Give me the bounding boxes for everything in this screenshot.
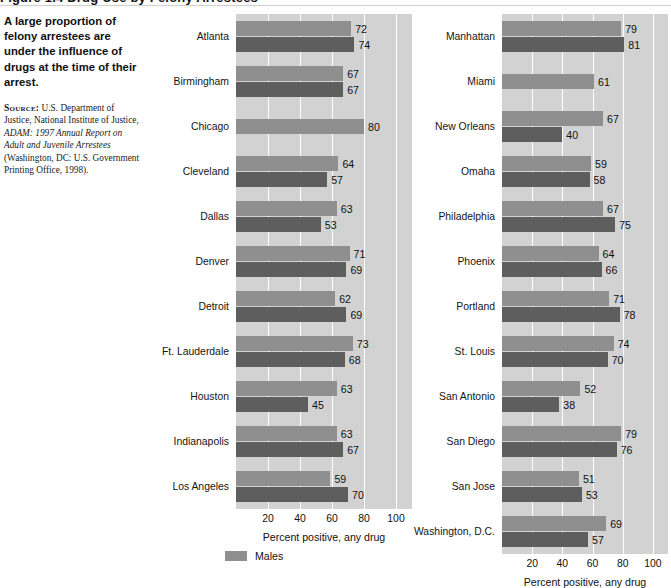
category-label: St. Louis — [412, 346, 502, 357]
plot-area: 6457 — [236, 149, 412, 194]
plot-area: 6269 — [236, 284, 412, 329]
plot-area: 6767 — [236, 59, 412, 104]
bar-value-label: 67 — [603, 203, 619, 215]
bar-females — [502, 217, 615, 232]
chart-row: Indianapolis6367 — [150, 419, 412, 464]
bar-females — [502, 127, 562, 142]
chart-row: Los Angeles5970 — [150, 464, 412, 509]
chart-legend: Males — [225, 550, 283, 562]
chart-row: Chicago80 — [150, 104, 412, 149]
bar-males — [236, 156, 338, 171]
sidenote: A large proportion of felony arrestees a… — [4, 14, 144, 176]
bar-row: 67 — [236, 442, 412, 457]
plot-area: 80 — [236, 104, 412, 149]
chart-row: Atlanta7274 — [150, 14, 412, 59]
x-axis-tick: 100 — [387, 513, 404, 524]
lede-text: A large proportion of felony arrestees a… — [4, 14, 144, 90]
bar-row: 69 — [502, 516, 668, 531]
bar-value-label: 38 — [559, 399, 575, 411]
bar-row: 51 — [502, 471, 668, 486]
bar-row: 63 — [236, 381, 412, 396]
bar-value-label: 52 — [580, 383, 596, 395]
bar-value-label: 72 — [351, 23, 367, 35]
bar-value-label: 78 — [620, 309, 636, 321]
bar-value-label: 68 — [345, 354, 361, 366]
x-axis-tick: 20 — [526, 558, 538, 569]
bar-group: 6775 — [502, 194, 668, 239]
bar-group: 6767 — [236, 59, 412, 104]
legend-swatch-males — [225, 551, 247, 561]
bar-row: 61 — [502, 74, 668, 89]
bar-males — [502, 516, 606, 531]
category-label: Birmingham — [150, 76, 236, 87]
chart-row: Phoenix6466 — [412, 239, 668, 284]
plot-area: 7981 — [502, 14, 668, 59]
chart-left: Atlanta7274Birmingham6767Chicago80Clevel… — [150, 14, 412, 543]
bar-females — [236, 82, 343, 97]
bar-row: 38 — [502, 397, 668, 412]
category-label: Dallas — [150, 211, 236, 222]
plot-area: 6353 — [236, 194, 412, 239]
x-axis-tick: 80 — [617, 558, 629, 569]
bar-row: 71 — [236, 246, 412, 261]
chart-row: Miami61 — [412, 59, 668, 104]
bar-row: 78 — [502, 307, 668, 322]
chart-row: Ft. Lauderdale7368 — [150, 329, 412, 374]
chart-row: San Jose5153 — [412, 464, 668, 509]
bar-value-label: 75 — [615, 219, 631, 231]
bar-females — [236, 217, 321, 232]
bar-value-label: 57 — [588, 534, 604, 546]
plot-area: 6345 — [236, 374, 412, 419]
x-axis: 20406080100 — [502, 554, 668, 578]
bar-value-label: 57 — [327, 174, 343, 186]
category-label: Denver — [150, 256, 236, 267]
bar-males — [502, 111, 603, 126]
bar-group: 6457 — [236, 149, 412, 194]
bar-females — [236, 262, 346, 277]
bar-males — [502, 201, 603, 216]
chart-row: Dallas6353 — [150, 194, 412, 239]
bar-group: 7169 — [236, 239, 412, 284]
category-label: New Orleans — [412, 121, 502, 132]
bar-value-label: 67 — [343, 68, 359, 80]
bar-value-label: 80 — [364, 121, 380, 133]
category-label: Ft. Lauderdale — [150, 346, 236, 357]
chart-row: Cleveland6457 — [150, 149, 412, 194]
bar-group: 80 — [236, 104, 412, 149]
category-label: Portland — [412, 301, 502, 312]
bar-males — [502, 471, 579, 486]
bar-row: 79 — [502, 426, 668, 441]
bar-value-label: 70 — [608, 354, 624, 366]
bar-row: 57 — [502, 532, 668, 547]
bar-row: 53 — [236, 217, 412, 232]
category-label: Phoenix — [412, 256, 502, 267]
chart-row: Manhattan7981 — [412, 14, 668, 59]
category-label: San Diego — [412, 436, 502, 447]
chart-row: Portland7178 — [412, 284, 668, 329]
category-label: Indianapolis — [150, 436, 236, 447]
bar-males — [236, 336, 353, 351]
plot-area: 6367 — [236, 419, 412, 464]
plot-area: 6466 — [502, 239, 668, 284]
bar-value-label: 63 — [337, 203, 353, 215]
bar-group: 7981 — [502, 14, 668, 59]
bar-group: 6957 — [502, 509, 668, 554]
category-label: Cleveland — [150, 166, 236, 177]
bar-row: 67 — [236, 82, 412, 97]
bar-group: 6269 — [236, 284, 412, 329]
bar-males — [236, 246, 350, 261]
bar-males — [236, 66, 343, 81]
chart-row: Detroit6269 — [150, 284, 412, 329]
category-label: Manhattan — [412, 31, 502, 42]
bar-row: 71 — [502, 291, 668, 306]
plot-area: 5970 — [236, 464, 412, 509]
category-label: Omaha — [412, 166, 502, 177]
bar-value-label: 59 — [330, 473, 346, 485]
bar-group: 7274 — [236, 14, 412, 59]
category-label: Chicago — [150, 121, 236, 132]
bar-value-label: 64 — [599, 248, 615, 260]
source-label: Source: — [4, 102, 39, 113]
plot-area: 61 — [502, 59, 668, 104]
bar-row: 59 — [502, 156, 668, 171]
bar-row: 45 — [236, 397, 412, 412]
